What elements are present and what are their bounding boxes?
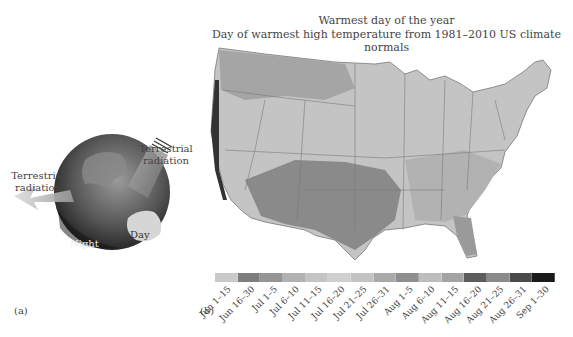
legend-swatch [442,273,465,282]
day-label: Day [130,229,150,241]
legend-swatch [510,273,533,282]
panel-a-label: (a) [14,305,28,316]
legend-swatch [215,273,238,282]
legend-swatch [260,273,283,282]
us-climate-map [205,40,573,268]
legend-labels: Jun 1–15Jun 16–30Jul 1–5Jul 6–10Jul 11–1… [215,284,555,334]
left-radiation-label-line2: radiation [8,182,68,194]
legend-swatch [419,273,442,282]
legend-swatch [283,273,306,282]
color-legend [215,273,555,282]
right-radiation-label-line1: Terrestrial [136,143,196,155]
legend-swatch [374,273,397,282]
legend-swatch [306,273,329,282]
right-radiation-label-line2: radiation [136,155,196,167]
left-radiation-label: Terrestrial radiation [8,170,68,194]
northwest-region [219,50,355,100]
night-label: Night [70,238,99,250]
legend-swatch [238,273,261,282]
legend-swatch [464,273,487,282]
left-radiation-label-line1: Terrestrial [8,170,68,182]
right-radiation-label: Terrestrial radiation [136,143,196,167]
legend-swatch [351,273,374,282]
map-title: Warmest day of the year [200,14,573,27]
legend-swatch [532,273,555,282]
legend-swatch [487,273,510,282]
southeast-region [405,150,501,222]
legend-swatch [328,273,351,282]
legend-swatch [396,273,419,282]
